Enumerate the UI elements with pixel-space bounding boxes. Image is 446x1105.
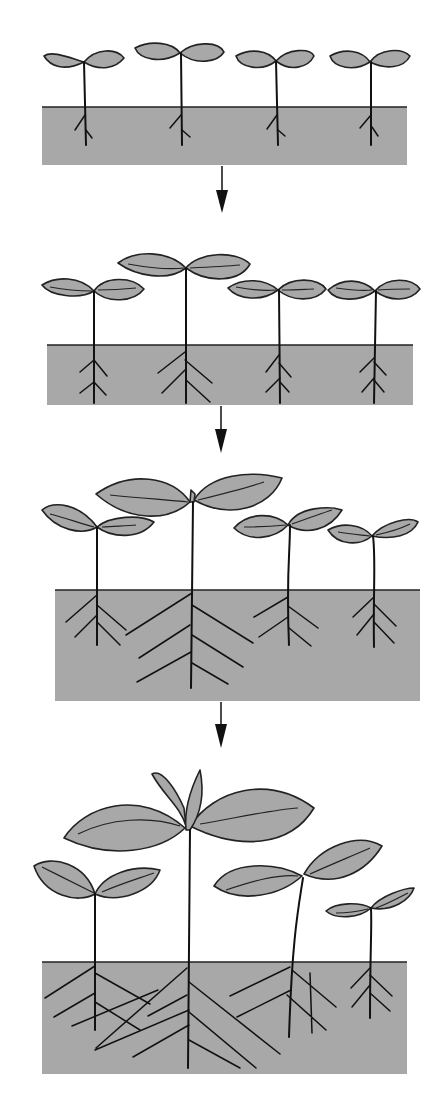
arrow-head-icon [216, 190, 228, 213]
stage-1 [42, 43, 410, 165]
stage-3 [42, 474, 420, 701]
leaf [44, 54, 84, 67]
growth-diagram [0, 0, 446, 1105]
arrow-head-icon [215, 724, 227, 748]
leaf [84, 51, 124, 68]
arrow-down [216, 166, 228, 213]
arrow-head-icon [215, 429, 227, 453]
stage-4 [34, 770, 414, 1074]
stage-2 [42, 254, 420, 405]
arrow-down [215, 702, 227, 748]
arrow-down [215, 406, 227, 453]
soil-block [42, 107, 407, 165]
